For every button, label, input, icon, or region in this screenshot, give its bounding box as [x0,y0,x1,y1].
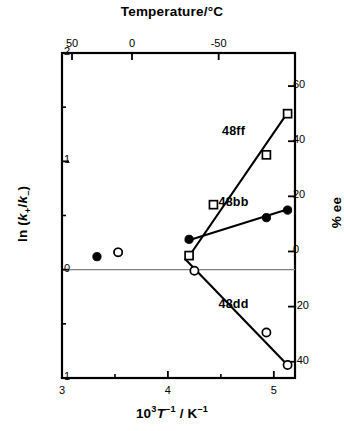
data-point-48ff [284,110,292,118]
fit-line-48dd [185,259,290,367]
chart-figure: Temperature/°C 345500-50-1012-40-2002040… [0,0,344,431]
data-point-48bb [262,214,270,222]
data-point-48ff [209,201,217,209]
data-point-48dd [190,267,198,275]
y-axis-title: ln (k+/k–) [15,164,33,264]
data-point-48ff [262,151,270,159]
data-point-48ff [185,252,193,260]
fit-line-48bb [185,209,289,242]
data-point-48dd [283,361,291,369]
x-axis-title: 103T–1 / K–1 [0,404,344,421]
y2-axis-title: % ee [329,163,344,263]
data-point-48bb [185,235,193,243]
data-point-48dd [262,328,270,336]
plot-frame [62,53,295,378]
plot-canvas [0,0,344,431]
data-point-48bb [93,253,101,261]
data-point-48dd [114,248,122,256]
data-point-48bb [283,206,291,214]
